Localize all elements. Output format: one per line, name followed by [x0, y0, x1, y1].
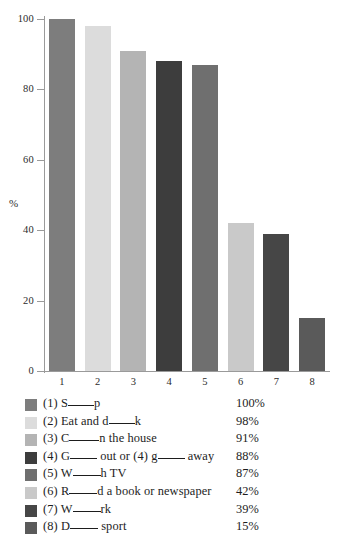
- x-tick-label-8: 8: [297, 376, 327, 387]
- answer-blank: [73, 475, 101, 476]
- y-tick-label: 80: [0, 83, 34, 94]
- bar-2: [85, 26, 111, 371]
- bar-5: [192, 65, 218, 371]
- legend-value: 39%: [236, 502, 259, 517]
- legend-item: (8) D sport15%: [0, 519, 340, 537]
- answer-blank: [69, 493, 97, 494]
- legend-item: (2) Eat and dk98%: [0, 414, 340, 432]
- y-tick-label: 40: [0, 224, 34, 235]
- x-tick-label-3: 3: [118, 376, 148, 387]
- answer-blank: [70, 528, 98, 529]
- legend-swatch: [25, 522, 37, 534]
- legend-value: 87%: [236, 466, 259, 481]
- legend-label: (1) Sp: [43, 396, 100, 411]
- x-axis-line: [38, 371, 330, 372]
- y-tick-mark: [37, 371, 44, 372]
- legend-label: (4) G out or (4) g away: [43, 449, 214, 464]
- legend-label: (2) Eat and dk: [43, 414, 141, 429]
- legend-value: 98%: [236, 414, 259, 429]
- answer-blank: [70, 458, 97, 459]
- bar-chart: % 020406080100 12345678: [0, 7, 340, 389]
- y-tick-mark: [37, 160, 44, 161]
- y-tick-mark: [37, 19, 44, 20]
- x-tick-label-7: 7: [261, 376, 291, 387]
- legend-label: (3) Cn the house: [43, 431, 157, 446]
- legend-swatch: [25, 452, 37, 464]
- answer-blank: [73, 511, 101, 512]
- legend-swatch: [25, 434, 37, 446]
- y-tick-mark: [37, 89, 44, 90]
- y-tick-label: 0: [0, 365, 34, 376]
- y-tick-label: 60: [0, 154, 34, 165]
- legend-swatch: [25, 399, 37, 411]
- y-tick-mark: [37, 230, 44, 231]
- answer-blank: [158, 458, 185, 459]
- x-tick-label-4: 4: [154, 376, 184, 387]
- legend-label: (7) Wrk: [43, 502, 111, 517]
- legend-item: (4) G out or (4) g away88%: [0, 449, 340, 467]
- answer-blank: [109, 423, 135, 424]
- answer-blank: [68, 405, 94, 406]
- bar-3: [120, 51, 146, 371]
- y-tick-label: 100: [0, 13, 34, 24]
- legend-value: 88%: [236, 449, 259, 464]
- bar-6: [228, 223, 254, 371]
- legend-value: 100%: [236, 396, 265, 411]
- x-tick-label-5: 5: [190, 376, 220, 387]
- legend-item: (1) Sp100%: [0, 396, 340, 414]
- y-tick-mark: [37, 301, 44, 302]
- legend-item: (5) Wh TV87%: [0, 466, 340, 484]
- legend-swatch: [25, 417, 37, 429]
- bar-7: [263, 234, 289, 371]
- page-title-cropped: What do the British do at weekends?: [0, 0, 340, 7]
- legend-label: (6) Rd a book or newspaper: [43, 484, 212, 499]
- chart-legend: (1) Sp100%(2) Eat and dk98%(3) Cn the ho…: [0, 396, 340, 537]
- legend-value: 15%: [236, 519, 259, 534]
- page-title-text: What do the British do at weekends?: [26, 0, 210, 4]
- y-axis-title: %: [9, 197, 18, 209]
- y-axis-line: [44, 16, 45, 373]
- x-tick-label-6: 6: [226, 376, 256, 387]
- legend-swatch: [25, 487, 37, 499]
- x-tick-label-1: 1: [47, 376, 77, 387]
- legend-item: (7) Wrk39%: [0, 502, 340, 520]
- bar-4: [156, 61, 182, 371]
- legend-value: 42%: [236, 484, 259, 499]
- legend-item: (6) Rd a book or newspaper42%: [0, 484, 340, 502]
- x-tick-label-2: 2: [83, 376, 113, 387]
- legend-swatch: [25, 469, 37, 481]
- legend-value: 91%: [236, 431, 259, 446]
- bar-8: [299, 318, 325, 371]
- legend-label: (8) D sport: [43, 519, 126, 534]
- legend-item: (3) Cn the house91%: [0, 431, 340, 449]
- answer-blank: [69, 440, 99, 441]
- bar-1: [49, 19, 75, 371]
- legend-label: (5) Wh TV: [43, 466, 127, 481]
- y-tick-label: 20: [0, 295, 34, 306]
- legend-swatch: [25, 505, 37, 517]
